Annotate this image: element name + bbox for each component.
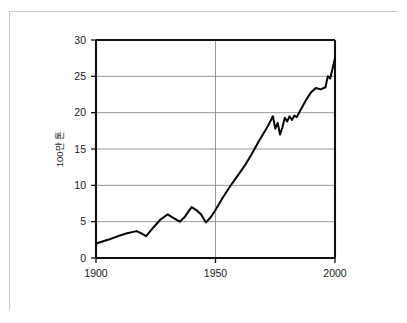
x-tick-label: 1900	[84, 267, 108, 279]
chart-plot-area: 051015202530 190019502000 100만 톤	[10, 12, 399, 311]
y-tick-label: 5	[80, 215, 86, 227]
y-tick-label: 30	[74, 34, 86, 46]
y-tick-label: 0	[80, 252, 86, 264]
y-tick-label: 20	[74, 106, 86, 118]
y-tick-label: 25	[74, 70, 86, 82]
y-tick-label: 15	[74, 143, 86, 155]
y-tick-label: 10	[74, 179, 86, 191]
y-axis-title: 100만 톤	[54, 131, 65, 168]
figure-card: 051015202530 190019502000 100만 톤	[9, 11, 398, 310]
x-tick-label: 2000	[323, 267, 347, 279]
x-tick-label: 1950	[204, 267, 228, 279]
line-chart: 051015202530 190019502000 100만 톤	[10, 12, 399, 311]
